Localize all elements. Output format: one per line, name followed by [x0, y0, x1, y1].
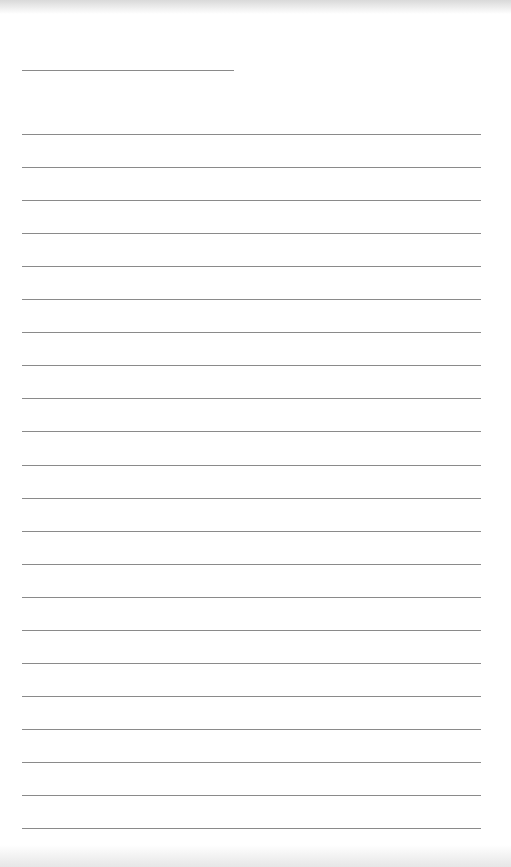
ruled-line: [22, 365, 481, 366]
ruled-line: [22, 630, 481, 631]
ruled-line: [22, 564, 481, 565]
ruled-line: [22, 233, 481, 234]
ruled-line: [22, 729, 481, 730]
ruled-line: [22, 266, 481, 267]
title-line: [22, 70, 234, 71]
ruled-line: [22, 299, 481, 300]
ruled-line: [22, 200, 481, 201]
ruled-line: [22, 597, 481, 598]
ruled-line: [22, 465, 481, 466]
ruled-line: [22, 828, 481, 829]
ruled-line: [22, 696, 481, 697]
ruled-line: [22, 398, 481, 399]
ruled-line: [22, 167, 481, 168]
page-bottom-edge-shadow: [0, 845, 511, 867]
ruled-line: [22, 431, 481, 432]
page-top-edge-shadow: [0, 0, 511, 14]
ruled-line: [22, 531, 481, 532]
ruled-line: [22, 663, 481, 664]
ruled-line: [22, 795, 481, 796]
ruled-line: [22, 332, 481, 333]
ruled-line: [22, 762, 481, 763]
ruled-line: [22, 498, 481, 499]
ruled-line: [22, 134, 481, 135]
